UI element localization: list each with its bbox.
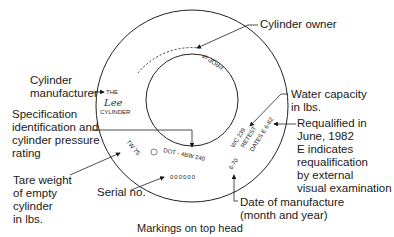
label-tare-weight: Tare weight of empty cylinder in lbs. xyxy=(13,174,72,226)
serial-marking: 000000 xyxy=(170,174,196,180)
tare-marking: TW 75 xyxy=(125,139,141,157)
manufacture-date-marking: 6-70 xyxy=(228,157,240,171)
label-specification: Specification identification and cylinde… xyxy=(12,108,100,160)
spec-leader xyxy=(92,130,192,147)
manufacture-date-leader xyxy=(234,175,238,201)
diagram-caption: Markings on top head xyxy=(137,222,243,234)
label-cylinder-owner: Cylinder owner xyxy=(260,18,337,31)
label-date-of-manufacture: Date of manufacture (month and year) xyxy=(240,196,344,222)
label-serial-no: Serial no. xyxy=(97,186,146,199)
inspector-symbol xyxy=(151,149,157,155)
owner-marking: PROP of xyxy=(201,53,224,71)
manufacturer-cylinder: CYLINDER xyxy=(100,109,131,115)
manufacturer-the: THE xyxy=(106,89,118,95)
label-water-capacity: Water capacity in lbs. xyxy=(291,88,367,114)
label-cylinder-manufacturer: Cylinder manufacturer xyxy=(30,74,98,100)
spec-marking: DOT - 4BW 240 xyxy=(163,147,207,162)
label-requalified: Requalified in June, 1982 E indicates re… xyxy=(297,117,392,195)
manufacturer-logo: Lee xyxy=(103,97,123,108)
